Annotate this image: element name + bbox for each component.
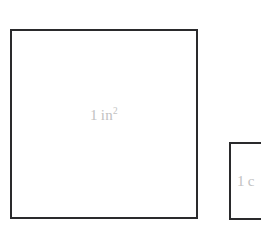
square-centimeter-label-number: 1	[237, 173, 245, 189]
square-inch-shape: 1in2	[10, 29, 198, 219]
square-inch-label-exponent: 2	[113, 105, 118, 115]
square-inch-label: 1in2	[90, 107, 118, 122]
square-centimeter-label-unit: c	[248, 173, 255, 189]
square-inch-label-unit: in	[101, 106, 113, 122]
square-centimeter-shape: 1c	[229, 142, 261, 220]
square-centimeter-label: 1c	[237, 174, 255, 189]
figure-canvas: 1in2 1c	[0, 0, 261, 238]
square-inch-label-number: 1	[90, 106, 98, 122]
